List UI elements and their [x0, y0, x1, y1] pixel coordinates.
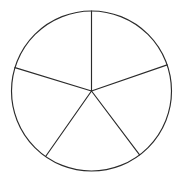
figure-root	[0, 0, 176, 181]
pie-diagram	[0, 0, 176, 181]
